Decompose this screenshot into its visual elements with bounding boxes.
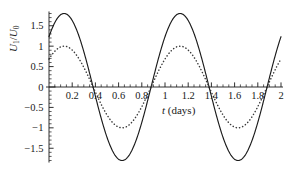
- svg-text:U1/U0: U1/U0: [7, 25, 21, 52]
- y-tick-label: 1.5: [30, 20, 43, 31]
- y-tick-label: −0.5: [24, 102, 43, 113]
- plot-area: 0.20.40.60.811.21.41.61.821.510.50−0.5−1…: [0, 0, 291, 169]
- x-tick-label: 2: [278, 90, 283, 101]
- x-tick-label: 1.4: [205, 90, 219, 101]
- x-tick-label: 1: [162, 90, 167, 101]
- x-axis-title: t (days): [162, 104, 196, 117]
- y-tick-label: 0: [38, 82, 43, 93]
- y-tick-label: 0.5: [30, 61, 43, 72]
- x-tick-label: 0.4: [89, 90, 103, 101]
- y-tick-label: 1: [38, 41, 43, 52]
- y-axis-title: U1/U0: [7, 25, 21, 52]
- x-tick-label: 1.2: [182, 90, 195, 101]
- chart-figure: 0.20.40.60.811.21.41.61.821.510.50−0.5−1…: [0, 0, 291, 169]
- x-tick-label: 0.8: [135, 90, 148, 101]
- x-tick-label: 0.2: [66, 90, 79, 101]
- x-tick-label: 1.8: [251, 90, 264, 101]
- y-tick-label: −1: [32, 122, 43, 133]
- axes-group: [46, 11, 283, 162]
- x-tick-label: 0.6: [112, 90, 125, 101]
- x-tick-label: 1.6: [228, 90, 241, 101]
- y-tick-label: −1.5: [24, 143, 43, 154]
